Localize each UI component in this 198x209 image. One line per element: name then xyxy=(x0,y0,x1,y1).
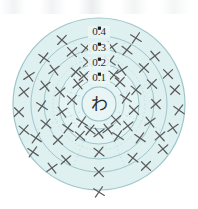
decimal-point-blob xyxy=(98,58,101,61)
decimal-point-blob xyxy=(98,43,101,46)
radial-tick-label-0.1: 0.1 xyxy=(88,71,110,84)
radial-tick-label-0.4: 0.4 xyxy=(88,25,110,38)
radial-tick-label-0.3: 0.3 xyxy=(88,41,110,54)
decimal-point-blob xyxy=(98,27,101,30)
concentric-ring-scatter-chart: 0.10.20.30.4 わ xyxy=(0,0,198,209)
decimal-point-blob xyxy=(98,73,101,76)
center-character-wa: わ xyxy=(91,94,108,114)
radial-tick-label-0.2: 0.2 xyxy=(88,56,110,69)
figure-canvas: 0.10.20.30.4 わ xyxy=(0,0,198,209)
